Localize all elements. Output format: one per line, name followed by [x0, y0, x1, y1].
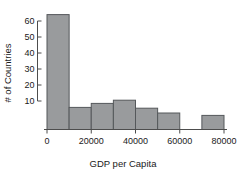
histogram-bar	[47, 15, 69, 130]
histogram-bar	[113, 100, 135, 129]
x-tick-label: 80000	[211, 136, 236, 146]
y-tick-label: 30	[24, 64, 34, 74]
y-tick-label: 40	[24, 48, 34, 58]
histogram-chart: 020000400006000080000 102030405060 GDP p…	[0, 0, 247, 177]
histogram-bar	[91, 103, 113, 129]
y-tick-label: 50	[24, 32, 34, 42]
chart-canvas: 020000400006000080000 102030405060 GDP p…	[0, 0, 247, 177]
x-tick-label: 40000	[123, 136, 148, 146]
y-tick-label: 60	[24, 16, 34, 26]
histogram-bar	[136, 108, 158, 129]
x-axis-title: GDP per Capita	[90, 158, 158, 169]
x-tick-label: 60000	[167, 136, 192, 146]
histogram-bar	[69, 107, 91, 129]
x-tick-label: 20000	[79, 136, 104, 146]
y-axis-title: # of Countries	[2, 43, 13, 102]
y-tick-label: 20	[24, 80, 34, 90]
y-tick-label: 10	[24, 96, 34, 106]
histogram-bar	[158, 113, 180, 130]
histogram-bar	[202, 115, 224, 129]
x-tick-label: 0	[44, 136, 49, 146]
